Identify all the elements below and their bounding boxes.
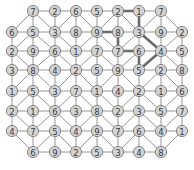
number-node[interactable]: 2 [70, 146, 81, 157]
node-value: 2 [9, 107, 14, 117]
number-node[interactable]: 4 [6, 125, 17, 136]
number-node[interactable]: 7 [155, 5, 166, 16]
number-node[interactable]: 7 [176, 105, 187, 116]
number-node[interactable]: 5 [27, 26, 38, 37]
number-node[interactable]: 8 [112, 26, 123, 37]
node-value: 3 [115, 148, 120, 158]
number-node[interactable]: 4 [133, 146, 144, 157]
number-node[interactable]: 2 [112, 5, 123, 16]
number-node[interactable]: 6 [176, 85, 187, 96]
number-node[interactable]: 2 [176, 26, 187, 37]
number-node[interactable]: 6 [27, 146, 38, 157]
node-value: 1 [179, 127, 184, 137]
number-node[interactable]: 9 [91, 26, 102, 37]
node-value: 6 [52, 107, 57, 117]
number-node[interactable]: 9 [112, 64, 123, 75]
number-node[interactable]: 2 [155, 64, 166, 75]
node-value: 7 [158, 7, 163, 17]
number-node[interactable]: 6 [49, 45, 60, 56]
number-node[interactable]: 7 [27, 125, 38, 136]
number-node[interactable]: 5 [176, 45, 187, 56]
node-value: 5 [94, 148, 99, 158]
node-value: 6 [30, 148, 35, 158]
node-value: 3 [136, 107, 141, 117]
node-value: 6 [179, 87, 184, 97]
number-node[interactable]: 2 [49, 5, 60, 16]
node-value: 9 [94, 127, 99, 137]
node-value: 2 [73, 66, 78, 76]
number-node[interactable]: 3 [70, 105, 81, 116]
number-node[interactable]: 2 [133, 85, 144, 96]
number-node[interactable]: 5 [27, 85, 38, 96]
node-value: 2 [52, 7, 57, 17]
number-node[interactable]: 3 [133, 26, 144, 37]
node-value: 8 [30, 66, 35, 76]
number-node[interactable]: 8 [91, 105, 102, 116]
node-value: 2 [179, 28, 184, 38]
number-node[interactable]: 9 [91, 125, 102, 136]
node-value: 6 [9, 28, 14, 38]
number-node[interactable]: 5 [91, 64, 102, 75]
number-node[interactable]: 8 [27, 64, 38, 75]
number-node[interactable]: 2 [6, 105, 17, 116]
node-value: 8 [94, 107, 99, 117]
number-node[interactable]: 1 [27, 105, 38, 116]
number-node[interactable]: 8 [155, 146, 166, 157]
node-value: 5 [52, 127, 57, 137]
number-node[interactable]: 1 [70, 45, 81, 56]
number-node[interactable]: 6 [49, 105, 60, 116]
node-value: 6 [136, 127, 141, 137]
number-node[interactable]: 4 [155, 45, 166, 56]
node-value: 4 [158, 127, 163, 137]
number-node[interactable]: 4 [155, 125, 166, 136]
number-node[interactable]: 9 [49, 146, 60, 157]
number-node[interactable]: 3 [133, 105, 144, 116]
number-node[interactable]: 7 [91, 45, 102, 56]
node-value: 4 [73, 127, 78, 137]
number-node[interactable]: 1 [91, 85, 102, 96]
number-node[interactable]: 9 [155, 26, 166, 37]
number-node[interactable]: 4 [49, 64, 60, 75]
number-node[interactable]: 7 [112, 125, 123, 136]
node-value: 8 [73, 28, 78, 38]
number-node[interactable]: 3 [112, 146, 123, 157]
number-node[interactable]: 6 [133, 125, 144, 136]
node-value: 2 [136, 87, 141, 97]
number-node[interactable]: 6 [70, 5, 81, 16]
number-node[interactable]: 2 [112, 105, 123, 116]
node-value: 1 [94, 87, 99, 97]
number-node[interactable]: 4 [112, 85, 123, 96]
node-value: 1 [158, 87, 163, 97]
number-node[interactable]: 3 [49, 26, 60, 37]
number-node[interactable]: 4 [70, 125, 81, 136]
number-node[interactable]: 3 [6, 64, 17, 75]
number-node[interactable]: 5 [155, 105, 166, 116]
number-node[interactable]: 1 [176, 125, 187, 136]
number-node[interactable]: 5 [91, 146, 102, 157]
number-node[interactable]: 7 [112, 45, 123, 56]
node-value: 3 [73, 107, 78, 117]
number-node[interactable]: 2 [6, 45, 17, 56]
number-node[interactable]: 6 [133, 45, 144, 56]
number-node[interactable]: 9 [27, 45, 38, 56]
number-node[interactable]: 7 [70, 85, 81, 96]
number-node[interactable]: 1 [155, 85, 166, 96]
number-node[interactable]: 6 [6, 26, 17, 37]
number-node[interactable]: 8 [70, 26, 81, 37]
node-value: 5 [30, 87, 35, 97]
node-value: 5 [136, 66, 141, 76]
node-value: 2 [115, 107, 120, 117]
node-value: 5 [158, 107, 163, 117]
number-node[interactable]: 1 [133, 5, 144, 16]
node-value: 1 [30, 107, 35, 117]
number-node[interactable]: 3 [49, 85, 60, 96]
number-node[interactable]: 5 [133, 64, 144, 75]
node-value: 8 [179, 66, 184, 76]
number-node[interactable]: 1 [6, 85, 17, 96]
number-node[interactable]: 7 [27, 5, 38, 16]
number-node[interactable]: 5 [91, 5, 102, 16]
number-node[interactable]: 8 [176, 64, 187, 75]
node-value: 2 [73, 148, 78, 158]
number-node[interactable]: 2 [70, 64, 81, 75]
number-node[interactable]: 5 [49, 125, 60, 136]
